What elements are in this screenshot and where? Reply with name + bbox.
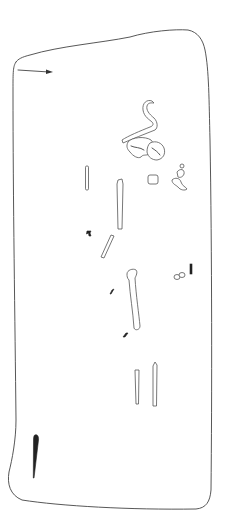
radius [101, 235, 114, 258]
grave-plan-drawing [0, 0, 226, 525]
mandible [122, 100, 157, 143]
small-find-bar [190, 264, 192, 274]
skull-fragments [127, 138, 165, 160]
small-bones-pair [174, 273, 185, 280]
small-bone [86, 166, 89, 190]
vertebra [148, 175, 158, 184]
small-find-mark [110, 289, 114, 294]
hand-bones [172, 164, 187, 190]
humerus [117, 179, 123, 229]
tibia [153, 362, 157, 406]
knife-icon [33, 435, 38, 478]
femur [127, 269, 140, 330]
fibula [135, 370, 139, 404]
north-arrow-icon [18, 70, 53, 75]
small-find-t [87, 231, 92, 236]
grave-outline [8, 30, 211, 509]
small-find-mark [123, 333, 128, 337]
